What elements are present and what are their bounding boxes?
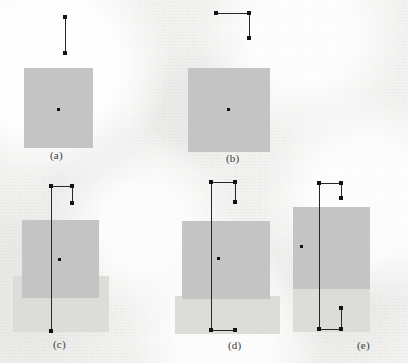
panel-e-bottom-horizontal-gauge xyxy=(319,329,341,330)
panel-e-long-vertical-gauge xyxy=(319,183,320,329)
panel-e-top-horizontal-gauge xyxy=(319,183,341,184)
panel-e-main-region xyxy=(293,207,370,289)
panel-e-gauge-endpoint-bottom-right xyxy=(339,327,343,331)
panel-label-e: (e) xyxy=(357,339,370,351)
panel-e-gauge-endpoint-top-left xyxy=(317,181,321,185)
panel-e-region-centroid xyxy=(300,245,303,248)
panel-e-gauge-endpoint-short-bottom xyxy=(339,196,343,200)
panel-e-gauge-corner-top-right xyxy=(339,181,343,185)
panel-e-gauge-endpoint-lower-mid xyxy=(339,306,343,310)
panel-e-gauge-endpoint-bottom-left xyxy=(317,327,321,331)
panel-e-lower-region xyxy=(293,288,370,332)
figure-canvas: (a)(b)(c)(d)(e) xyxy=(0,0,408,363)
panel-e-bottom-short-vertical-gauge xyxy=(341,308,342,329)
panel-e: (e) xyxy=(0,0,408,363)
